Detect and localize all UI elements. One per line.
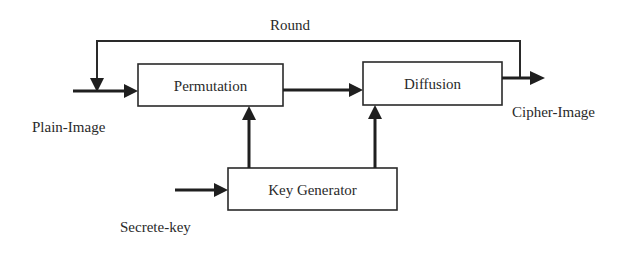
secret-key-arrowhead — [214, 183, 228, 197]
key-generator-label: Key Generator — [268, 182, 357, 198]
keygen-to-permutation-arrowhead — [242, 106, 256, 120]
plain-image-label: Plain-Image — [32, 119, 106, 135]
permutation-to-diffusion-arrowhead — [349, 83, 363, 97]
secret-key-label: Secrete-key — [120, 219, 191, 235]
encryption-block-diagram: Round Plain-Image Permutation Diffusion … — [0, 0, 643, 253]
diffusion-label: Diffusion — [404, 76, 462, 92]
cipher-image-arrowhead — [530, 71, 545, 85]
plain-image-arrowhead — [124, 84, 138, 98]
keygen-to-diffusion-arrowhead — [368, 105, 382, 119]
round-label: Round — [270, 17, 311, 33]
permutation-label: Permutation — [174, 78, 248, 94]
cipher-image-label: Cipher-Image — [512, 104, 595, 120]
